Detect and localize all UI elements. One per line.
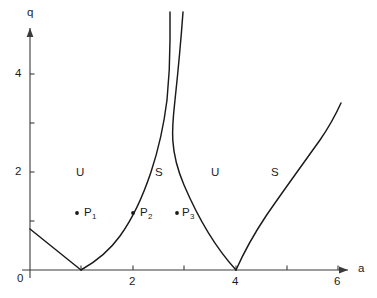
- point-label-p3-text: P: [182, 206, 190, 218]
- point-label-p3: P3: [182, 207, 194, 219]
- phase-diagram-figure: q a 0 2 4 6 2 4 U S U S P1 P2 P3: [0, 0, 377, 298]
- region-label-s-1: S: [155, 167, 163, 179]
- region-label-u-1: U: [76, 167, 84, 179]
- point-label-p2-subscript: 2: [148, 212, 152, 221]
- point-label-p2-text: P: [140, 206, 148, 218]
- point-label-p1-subscript: 1: [92, 212, 96, 221]
- point-label-p1: P1: [84, 207, 96, 219]
- point-label-p3-subscript: 3: [190, 212, 194, 221]
- y-axis-title: q: [27, 7, 33, 19]
- marker-dot-p1: [75, 211, 79, 215]
- plot-canvas: [0, 0, 377, 298]
- x-tick-label-6: 6: [334, 276, 340, 288]
- x-axis-title: a: [358, 263, 364, 275]
- region-label-s-2: S: [271, 167, 279, 179]
- point-label-p2: P2: [140, 207, 152, 219]
- x-axis-arrowhead: [339, 267, 348, 274]
- marker-dot-p3: [175, 211, 179, 215]
- region-label-u-2: U: [211, 167, 219, 179]
- x-tick-label-2: 2: [129, 276, 135, 288]
- marker-dot-p2: [131, 211, 135, 215]
- boundary-curve-1-right: [81, 12, 170, 270]
- y-tick-label-4: 4: [15, 68, 21, 80]
- y-axis-arrowhead: [27, 28, 34, 37]
- boundary-curve-2-right: [236, 103, 341, 270]
- boundary-curve-1: [30, 229, 81, 270]
- y-tick-label-2: 2: [15, 166, 21, 178]
- x-tick-label-4: 4: [232, 276, 238, 288]
- boundary-curve-2-left: [173, 12, 236, 270]
- point-label-p1-text: P: [84, 206, 92, 218]
- origin-label: 0: [17, 273, 23, 285]
